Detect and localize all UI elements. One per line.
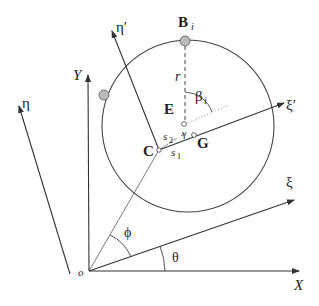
label-point-b-subscript: i [191,21,194,32]
label-point-e: E [164,101,174,117]
xi-prime-axis [159,103,284,150]
label-s2: s [163,130,167,142]
label-xi: ξ [286,174,293,190]
label-eta: η [22,95,30,111]
label-s1: s [171,146,175,158]
point-c [157,148,161,152]
label-theta: θ [172,250,179,265]
point-g [192,133,197,138]
label-xi-prime: ξ′ [286,97,296,113]
eta-prime-axis [112,31,159,150]
label-s2-subscript: 2 [169,136,173,145]
beta-reference-dotted-line [185,105,229,124]
label-point-b: B [178,14,188,30]
xi-axis [89,200,294,271]
label-origin: o [78,266,84,278]
point-e [182,122,187,127]
point-unnamed-on-circle [99,90,109,100]
theta-arc [160,246,165,271]
label-radius: r [175,69,181,84]
point-b [180,36,190,46]
label-beta: β [195,88,203,104]
label-y-axis: Y [73,67,83,83]
label-phi: ϕ [124,225,131,240]
circle [102,40,274,212]
label-s1-subscript: 1 [177,152,181,161]
label-gamma: γ [181,128,187,139]
label-point-c: C [143,143,154,159]
oc-line [89,150,159,271]
y-axis [88,75,89,271]
label-beta-subscript: i [204,95,207,106]
label-eta-prime: η′ [116,19,127,35]
coordinate-diagram: o X Y ξ η ξ′ η′ C E G B i r β i γ s 2 s … [0,0,319,306]
eta-axis [19,106,70,274]
label-point-g: G [197,135,209,151]
label-x-axis: X [293,277,304,293]
